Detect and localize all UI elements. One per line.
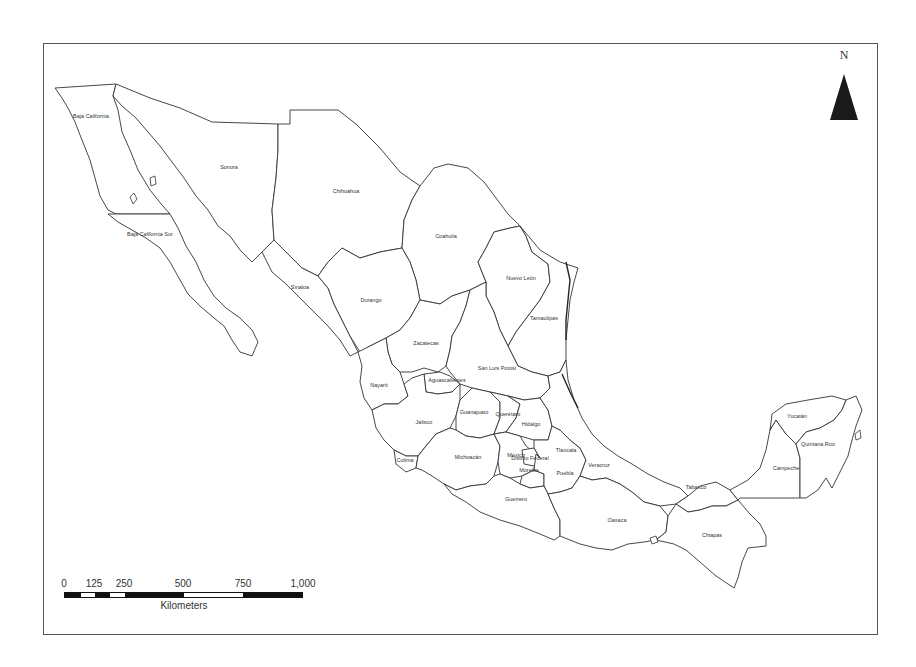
scale-tick: 250 [116, 578, 133, 589]
scale-tick: 500 [175, 578, 192, 589]
state-label: Campeche [773, 465, 800, 471]
state-label: San Luis Potosí [478, 365, 517, 371]
state-label: Baja California Sur [127, 231, 173, 237]
state-label: Tlaxcala [556, 447, 577, 453]
state-label: Michoacán [455, 454, 482, 460]
state-label: Hidalgo [522, 421, 541, 427]
north-label: N [826, 48, 862, 63]
state-label: Chiapas [702, 532, 722, 538]
state-label: Sonora [220, 164, 239, 170]
state-label: Querétaro [496, 411, 521, 417]
state-label: Coahuila [435, 233, 458, 239]
state-label: Quintana Roo [801, 441, 835, 447]
scale-unit-label: Kilometers [56, 600, 312, 611]
north-arrow: N [826, 48, 862, 126]
state-label: Chihuahua [333, 188, 361, 194]
scale-bar-graphic [64, 592, 303, 598]
state-label: Colima [396, 457, 414, 463]
state-label: Morelos [519, 467, 539, 473]
state-label: Zacatecas [413, 340, 439, 346]
state-label: Jalisco [416, 419, 433, 425]
state-label: Aguascalientes [428, 377, 466, 383]
state-label: Durango [360, 297, 381, 303]
state-label: Distrito Federal [511, 455, 548, 461]
scale-tick: 125 [86, 578, 103, 589]
state-label: Veracruz [588, 462, 610, 468]
state-label: Puebla [556, 470, 574, 476]
state-label: Guanajuato [460, 409, 488, 415]
mexico-states-map: Baja CaliforniaBaja California SurSonora… [0, 0, 916, 667]
state-label: Yucatán [787, 413, 807, 419]
scale-tick: 0 [61, 578, 67, 589]
north-arrow-icon [830, 74, 858, 120]
state-label: Guerrero [505, 496, 527, 502]
state-chiapas [656, 500, 766, 588]
state-label: Nuevo León [506, 275, 536, 281]
state-label: Sinaloa [291, 284, 310, 290]
state-label: Tamaulipas [530, 315, 558, 321]
state-label: Oaxaca [608, 517, 628, 523]
state-label: Baja California [73, 113, 110, 119]
scale-bar: 0 125 250 500 750 1,000 Kilometers [56, 578, 316, 618]
scale-tick: 1,000 [290, 578, 315, 589]
scale-tick: 750 [235, 578, 252, 589]
state-label: Tabasco [686, 484, 707, 490]
state-label: Nayarit [370, 382, 388, 388]
